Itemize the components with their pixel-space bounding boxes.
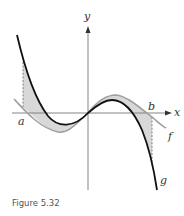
x-axis-arrow [165, 111, 172, 116]
bound-a-label: a [18, 115, 25, 128]
curve-f-label: f [167, 130, 174, 143]
curve-g-label: g [160, 174, 167, 187]
y-axis-arrow [86, 26, 91, 33]
bound-b-label: b [148, 100, 155, 113]
y-axis-label: y [83, 10, 91, 23]
figure-5-32: y x a b f g [0, 0, 184, 216]
x-axis-label: x [174, 106, 181, 119]
figure-caption: Figure 5.32 [12, 198, 60, 208]
